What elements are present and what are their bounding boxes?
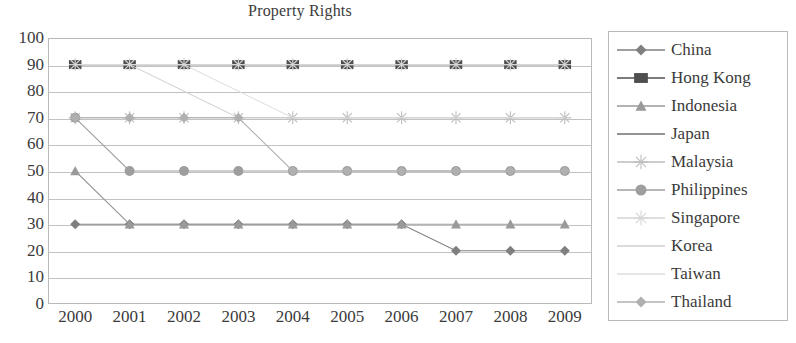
legend-marker-icon: [615, 122, 667, 146]
x-axis-labels: 2000200120022003200420052006200720082009: [48, 307, 592, 337]
legend-item-indonesia[interactable]: Indonesia: [609, 92, 787, 120]
series-taiwan: [75, 65, 565, 118]
legend-item-philippines[interactable]: Philippines: [609, 176, 787, 204]
series-layer: [48, 38, 592, 304]
y-axis-tick-label: 30: [0, 215, 44, 232]
legend-list: ChinaHong KongIndonesiaJapanMalaysiaPhil…: [609, 36, 787, 316]
x-axis-tick-label: 2007: [426, 307, 486, 327]
data-point: [560, 246, 570, 256]
x-axis-tick-label: 2008: [480, 307, 540, 327]
y-axis-tick-label: 0: [0, 295, 44, 312]
data-point: [451, 246, 461, 256]
legend-item-taiwan[interactable]: Taiwan: [609, 260, 787, 288]
x-axis-tick-label: 2001: [100, 307, 160, 327]
legend-marker-icon: [615, 262, 667, 286]
property-rights-chart: Property Rights 1009080706050403020100 2…: [0, 0, 796, 343]
legend-marker-icon: [615, 206, 667, 230]
x-axis-tick-label: 2002: [154, 307, 214, 327]
y-axis-labels: 1009080706050403020100: [0, 38, 44, 304]
x-axis-tick-label: 2009: [535, 307, 595, 327]
legend-marker-icon: [615, 150, 667, 174]
data-point: [233, 166, 243, 176]
legend-item-label: China: [671, 40, 712, 60]
legend-item-label: Japan: [671, 124, 710, 144]
x-axis-tick-label: 2005: [317, 307, 377, 327]
legend-marker-icon: [615, 290, 667, 314]
legend-item-hong-kong[interactable]: Hong Kong: [609, 64, 787, 92]
series-korea: [75, 65, 565, 118]
legend-item-label: Malaysia: [671, 152, 733, 172]
legend-item-thailand[interactable]: Thailand: [609, 288, 787, 316]
data-point: [179, 166, 189, 176]
legend-item-label: Philippines: [671, 180, 748, 200]
series-indonesia: [70, 166, 570, 228]
y-axis-tick-label: 40: [0, 189, 44, 206]
data-point: [395, 58, 408, 71]
legend-item-label: Thailand: [671, 292, 731, 312]
y-axis-tick-label: 60: [0, 135, 44, 152]
legend-marker-icon: [615, 38, 667, 62]
x-axis-tick-label: 2003: [208, 307, 268, 327]
legend-marker-icon: [615, 94, 667, 118]
chart-title: Property Rights: [0, 2, 600, 20]
x-axis-tick-label: 2000: [45, 307, 105, 327]
data-point: [70, 166, 80, 175]
legend-item-malaysia[interactable]: Malaysia: [609, 148, 787, 176]
legend-item-singapore[interactable]: Singapore: [609, 204, 787, 232]
legend-item-china[interactable]: China: [609, 36, 787, 64]
y-axis-tick-label: 20: [0, 242, 44, 259]
data-point: [558, 58, 571, 71]
y-axis-tick-label: 50: [0, 162, 44, 179]
x-axis-tick-label: 2004: [263, 307, 323, 327]
legend-item-label: Hong Kong: [671, 68, 751, 88]
data-point: [505, 246, 515, 256]
series-thailand: [70, 113, 570, 176]
legend-item-label: Taiwan: [671, 264, 721, 284]
data-point: [450, 58, 463, 71]
data-point: [341, 58, 354, 71]
legend-marker-icon: [615, 234, 667, 258]
legend: ChinaHong KongIndonesiaJapanMalaysiaPhil…: [608, 31, 788, 321]
legend-item-korea[interactable]: Korea: [609, 232, 787, 260]
y-axis-tick-label: 90: [0, 56, 44, 73]
y-axis-tick-label: 10: [0, 268, 44, 285]
y-axis-tick-label: 70: [0, 109, 44, 126]
legend-item-label: Indonesia: [671, 96, 737, 116]
legend-item-label: Singapore: [671, 208, 740, 228]
legend-item-japan[interactable]: Japan: [609, 120, 787, 148]
y-axis-tick-label: 80: [0, 82, 44, 99]
data-point: [125, 166, 135, 176]
legend-marker-icon: [615, 178, 667, 202]
data-point: [232, 58, 245, 71]
data-point: [504, 58, 517, 71]
legend-item-label: Korea: [671, 236, 713, 256]
data-point: [70, 219, 80, 229]
legend-marker-icon: [615, 66, 667, 90]
x-axis-tick-label: 2006: [372, 307, 432, 327]
data-point: [286, 58, 299, 71]
y-axis-tick-label: 100: [0, 29, 44, 46]
series-philippines: [70, 113, 570, 176]
